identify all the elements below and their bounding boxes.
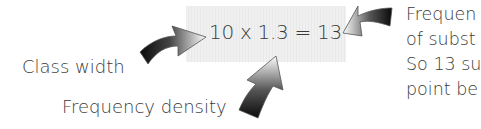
arrow-left-icon [0, 0, 474, 129]
